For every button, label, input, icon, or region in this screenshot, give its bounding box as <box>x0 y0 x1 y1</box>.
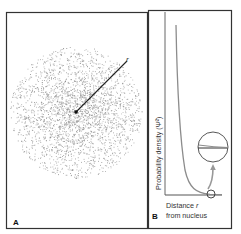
y-axis-label: Probability density (Ψ²) <box>154 116 163 190</box>
x-axis-label-text: Distance <box>166 201 196 210</box>
panel-b-label: B <box>152 212 158 221</box>
panel-b: Probability density (Ψ²) Distance r from… <box>149 11 232 229</box>
orbital-figure: r A Probability density (Ψ²) Distance r … <box>0 0 241 234</box>
panel-a-label: A <box>13 218 19 227</box>
magnified-inset <box>198 132 228 162</box>
nucleus-dot <box>74 110 78 114</box>
radius-label: r <box>126 55 129 64</box>
x-axis-label-line1: Distance r <box>166 201 199 210</box>
x-axis-label-line2: from nucleus <box>166 211 208 220</box>
panel-a: r A <box>7 13 148 229</box>
